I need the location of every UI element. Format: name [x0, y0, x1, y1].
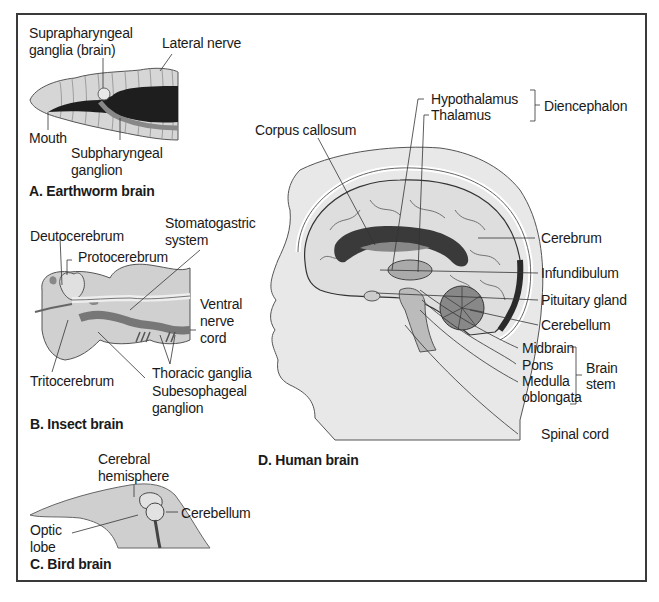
label-ventral-line1: Ventral — [200, 296, 242, 312]
label-hypothalamus: Hypothalamus — [431, 91, 518, 107]
label-subesophageal-line2: ganglion — [152, 400, 203, 416]
label-brain-stem-line2: stem — [586, 376, 616, 392]
label-thalamus: Thalamus — [431, 107, 491, 123]
label-medulla-line2: oblongata — [522, 389, 582, 405]
label-human-cerebellum: Cerebellum — [541, 317, 611, 333]
label-tritocerebrum: Tritocerebrum — [30, 373, 114, 389]
label-subpharyngeal-line2: ganglion — [71, 162, 122, 178]
label-midbrain: Midbrain — [522, 340, 574, 356]
panel-b-title: B. Insect brain — [30, 416, 123, 432]
label-ventral-line2: nerve — [200, 313, 234, 329]
label-stomatogastric-line1: Stomatogastric — [165, 215, 256, 231]
label-cerebrum: Cerebrum — [541, 230, 602, 246]
label-spinal-cord: Spinal cord — [541, 426, 609, 442]
panel-d-title: D. Human brain — [258, 452, 359, 468]
label-suprapharyngeal-line1: Suprapharyngeal — [29, 25, 133, 41]
label-pituitary-gland: Pituitary gland — [541, 292, 627, 308]
label-deutocerebrum: Deutocerebrum — [30, 228, 124, 244]
label-diencephalon: Diencephalon — [544, 98, 627, 114]
label-infundibulum: Infundibulum — [541, 265, 619, 281]
label-subpharyngeal-line1: Subpharyngeal — [71, 145, 163, 161]
label-optic-line1: Optic — [30, 522, 62, 538]
label-optic-line2: lobe — [30, 539, 56, 555]
label-cerebral-line1: Cerebral — [98, 451, 150, 467]
label-thoracic-ganglia: Thoracic ganglia — [152, 365, 252, 381]
label-brain-stem-line1: Brain — [586, 360, 618, 376]
earthworm-illustration — [30, 54, 178, 140]
label-suprapharyngeal-line2: ganglia (brain) — [29, 42, 116, 58]
label-protocerebrum: Protocerebrum — [78, 249, 168, 265]
label-cerebral-line2: hemisphere — [98, 468, 169, 484]
label-medulla-line1: Medulla — [522, 373, 570, 389]
panel-c-title: C. Bird brain — [30, 556, 111, 572]
label-bird-cerebellum: Cerebellum — [181, 505, 251, 521]
label-ventral-line3: cord — [200, 330, 226, 346]
label-corpus-callosum: Corpus callosum — [255, 122, 356, 138]
label-pons: Pons — [522, 357, 553, 373]
label-stomatogastric-line2: system — [165, 232, 208, 248]
label-mouth: Mouth — [29, 130, 67, 146]
label-subesophageal-line1: Subesophageal — [152, 383, 247, 399]
label-lateral-nerve: Lateral nerve — [162, 35, 241, 51]
panel-a-title: A. Earthworm brain — [29, 183, 155, 199]
